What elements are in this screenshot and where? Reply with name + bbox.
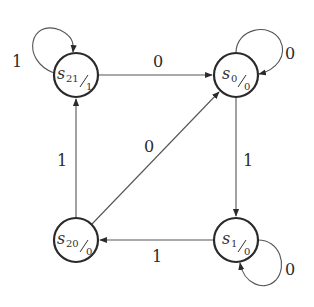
- edge-label-s21-s0: 0: [153, 52, 163, 71]
- edge-label-s20-s21: 1: [57, 151, 67, 170]
- edge-s21-to-s0: 0: [98, 52, 212, 75]
- state-sub-s0: 0: [231, 73, 237, 84]
- self-loop-label-s1: 0: [285, 260, 295, 279]
- self-loop-label-s21: 1: [12, 52, 22, 71]
- state-name-s21: s: [57, 64, 65, 83]
- state-s21: s 21 1: [54, 53, 98, 97]
- state-s1: s 1 0: [214, 218, 258, 262]
- edge-s0-to-s1: 1: [236, 97, 253, 216]
- state-s0: s 0 0: [214, 53, 258, 97]
- state-sub-s1: 1: [231, 238, 237, 249]
- state-output-s20: 0: [86, 246, 92, 257]
- edge-label-s20-s0: 0: [144, 137, 154, 156]
- state-s20: s 20 0: [54, 218, 98, 262]
- edge-s1-to-s20: 1: [100, 240, 214, 266]
- state-output-s0: 0: [244, 81, 250, 92]
- state-output-s21: 1: [86, 81, 92, 92]
- edge-s20-to-s21: 1: [57, 99, 76, 218]
- edge-label-s0-s1: 1: [243, 151, 253, 170]
- self-loop-label-s0: 0: [285, 44, 295, 63]
- state-output-s1: 0: [244, 246, 250, 257]
- state-sub-s20: 20: [66, 238, 79, 249]
- state-name-s0: s: [222, 64, 230, 83]
- edge-s20-to-s0: 0: [92, 92, 219, 224]
- state-name-s1: s: [222, 229, 230, 248]
- state-name-s20: s: [57, 229, 65, 248]
- edge-label-s1-s20: 1: [152, 247, 162, 266]
- state-sub-s21: 21: [66, 73, 79, 84]
- state-diagram: 0 1 1 1 0 1 0 0 s 21 1: [0, 0, 314, 307]
